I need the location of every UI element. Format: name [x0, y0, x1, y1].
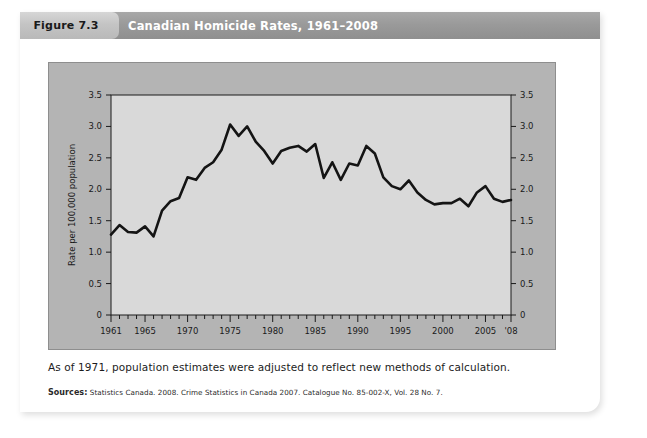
y-tick-label-right: 3.0: [520, 121, 534, 131]
x-axis-ticks: [111, 315, 511, 322]
y-tick-label-right: 3.5: [520, 90, 534, 100]
x-tick-label: 1970: [177, 326, 199, 336]
y-axis-labels-right: 00.51.01.52.02.53.03.5: [520, 90, 534, 320]
y-tick-label: 3.5: [88, 90, 102, 100]
y-axis-labels-left: 00.51.01.52.02.53.03.5: [88, 90, 102, 320]
x-tick-label: 1980: [262, 326, 284, 336]
y-tick-label: 2.5: [88, 153, 102, 163]
plot-background: [111, 95, 511, 315]
x-tick-label: 1975: [219, 326, 241, 336]
y-tick-label: 1.0: [88, 247, 102, 257]
figure-number-tab: Figure 7.3: [20, 12, 112, 39]
y-tick-label: 2.0: [88, 184, 102, 194]
x-tick-label: 1985: [304, 326, 326, 336]
x-tick-label: 1965: [134, 326, 156, 336]
figure-title-bar: Canadian Homicide Rates, 1961–2008: [112, 12, 600, 39]
x-tick-label: 2005: [475, 326, 497, 336]
y-tick-label: 1.5: [88, 216, 102, 226]
x-tick-label: 2000: [432, 326, 454, 336]
x-tick-label: '08: [504, 326, 517, 336]
figure-header: Figure 7.3 Canadian Homicide Rates, 1961…: [20, 12, 600, 39]
figure-note: As of 1971, population estimates were ad…: [48, 361, 568, 373]
x-tick-label: 1990: [347, 326, 369, 336]
figure-source-label: Sources:: [48, 388, 87, 397]
x-tick-label: 1995: [390, 326, 412, 336]
x-axis-labels: 1961196519701975198019851990199520002005…: [100, 326, 517, 336]
x-tick-label: 1961: [100, 326, 122, 336]
y-tick-label-right: 1.5: [520, 216, 534, 226]
y-axis-ticks-right: [511, 95, 516, 315]
figure-title: Canadian Homicide Rates, 1961–2008: [128, 19, 378, 33]
figure-number-label: Figure 7.3: [33, 19, 98, 32]
y-axis-title: Rate per 100,000 population: [67, 144, 77, 266]
figure-card: Figure 7.3 Canadian Homicide Rates, 1961…: [20, 12, 600, 412]
y-tick-label-right: 1.0: [520, 247, 534, 257]
y-tick-label: 0.5: [88, 279, 102, 289]
figure-source: Sources: Statistics Canada. 2008. Crime …: [48, 388, 568, 397]
y-tick-label-right: 0: [520, 310, 525, 320]
chart-panel: 00.51.01.52.02.53.03.5 00.51.01.52.02.53…: [48, 62, 556, 350]
line-chart-svg: 00.51.01.52.02.53.03.5 00.51.01.52.02.53…: [49, 63, 555, 349]
y-tick-label: 3.0: [88, 121, 102, 131]
y-tick-label-right: 0.5: [520, 279, 534, 289]
y-axis-ticks-left: [106, 95, 111, 315]
plot-area: 00.51.01.52.02.53.03.5 00.51.01.52.02.53…: [49, 63, 555, 349]
y-tick-label-right: 2.0: [520, 184, 534, 194]
y-tick-label-right: 2.5: [520, 153, 534, 163]
y-tick-label: 0: [97, 310, 102, 320]
figure-source-text: Statistics Canada. 2008. Crime Statistic…: [90, 388, 443, 397]
